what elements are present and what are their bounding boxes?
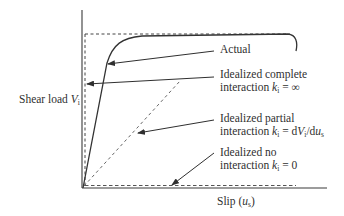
annotation-none: Idealized no interaction ki = 0 [220, 146, 297, 172]
partial-label-line1: Idealized partial [220, 112, 324, 125]
y-axis-label-text: Shear load [19, 93, 71, 105]
x-axis-label-close: ) [251, 195, 255, 207]
x-axis-label: Slip (us) [217, 195, 255, 208]
annotation-partial: Idealized partial interaction ki = dVi/d… [220, 112, 324, 138]
none-label-line1: Idealized no [220, 146, 297, 159]
none-arrow [172, 153, 214, 185]
annotation-complete: Idealized complete interaction ki = ∞ [220, 68, 307, 94]
none-prefix: interaction [220, 159, 272, 171]
partial-arrow [138, 120, 214, 133]
complete-suffix: = ∞ [279, 81, 299, 93]
none-suffix: = 0 [279, 159, 297, 171]
annotation-actual: Actual [220, 43, 251, 56]
x-axis-label-text: Slip ( [217, 195, 242, 207]
partial-prefix: interaction [220, 125, 272, 137]
y-axis-symbol: V [71, 93, 78, 105]
complete-arrow [87, 77, 214, 84]
y-axis-label: Shear load Vi [19, 93, 80, 106]
complete-label-line1: Idealized complete [220, 68, 307, 81]
complete-prefix: interaction [220, 81, 272, 93]
partial-slash: /d [306, 125, 315, 137]
diagram-canvas [0, 0, 344, 216]
actual-label: Actual [220, 43, 251, 55]
partial-label-line2: interaction ki = dVi/dus [220, 125, 324, 138]
partial-eq: = d [279, 125, 297, 137]
complete-label-line2: interaction ki = ∞ [220, 81, 307, 94]
actual-arrow [108, 51, 214, 64]
none-label-line2: interaction ki = 0 [220, 159, 297, 172]
partial-u-sub: s [321, 130, 324, 139]
partial-interaction-line [84, 81, 180, 186]
y-axis-subscript: i [78, 98, 80, 107]
